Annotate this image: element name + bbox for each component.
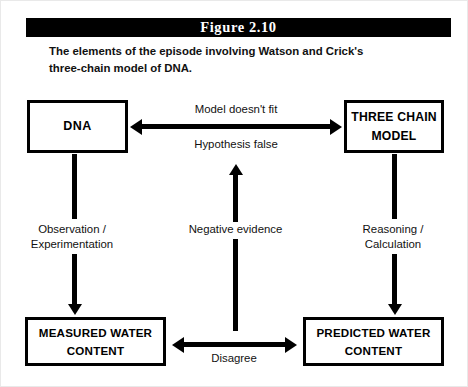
edge-label-observation-line-1: Observation / [38, 223, 106, 235]
arrow-shaft-vertical-left-upper [72, 154, 77, 219]
node-predicted-water-content: PREDICTED WATER CONTENT [303, 317, 444, 366]
caption-line-2: three-chain model of DNA. [49, 60, 419, 77]
arrowhead-down-right [388, 304, 402, 315]
node-measured-water-content: MEASURED WATER CONTENT [25, 317, 166, 366]
node-measured-water-content-line-1: MEASURED WATER [39, 326, 152, 339]
edge-label-observation-line-2: Experimentation [31, 238, 113, 250]
node-three-chain-model: THREE CHAIN MODEL [344, 100, 444, 153]
figure-caption: The elements of the episode involving Wa… [49, 43, 419, 77]
figure-number-bar: Figure 2.10 [26, 18, 451, 37]
arrow-shaft-vertical-center-upper [233, 175, 238, 222]
node-measured-water-content-label: MEASURED WATER CONTENT [39, 324, 152, 360]
arrow-shaft-horizontal-top [142, 124, 330, 129]
arrow-shaft-vertical-right-upper [392, 154, 397, 219]
node-predicted-water-content-line-1: PREDICTED WATER [316, 326, 430, 339]
edge-label-model-doesnt-fit: Model doesn't fit [171, 102, 301, 117]
edge-label-negative-evidence: Negative evidence [173, 222, 298, 237]
caption-line-1: The elements of the episode involving Wa… [49, 43, 419, 60]
node-three-chain-model-line-2: MODEL [371, 129, 416, 143]
arrow-shaft-vertical-right-lower [392, 254, 397, 305]
node-three-chain-model-line-1: THREE CHAIN [351, 110, 436, 124]
node-measured-water-content-line-2: CONTENT [67, 344, 124, 357]
arrow-shaft-horizontal-bottom [184, 342, 285, 347]
edge-label-reasoning-calculation: Reasoning / Calculation [340, 222, 446, 252]
node-predicted-water-content-line-2: CONTENT [345, 344, 402, 357]
arrowhead-left-top [130, 119, 142, 135]
arrowhead-right-top [330, 119, 342, 135]
node-dna: DNA [27, 100, 128, 153]
node-dna-label: DNA [63, 117, 92, 136]
arrow-shaft-vertical-center-lower [233, 239, 238, 331]
arrowhead-down-left [68, 304, 82, 315]
edge-label-hypothesis-false: Hypothesis false [171, 137, 301, 152]
figure-container: Figure 2.10 The elements of the episode … [0, 0, 468, 387]
arrow-shaft-vertical-left-lower [72, 254, 77, 305]
edge-label-reasoning-line-2: Calculation [365, 238, 421, 250]
edge-label-observation-experimentation: Observation / Experimentation [14, 222, 130, 252]
edge-label-reasoning-line-1: Reasoning / [363, 223, 424, 235]
node-predicted-water-content-label: PREDICTED WATER CONTENT [316, 324, 430, 360]
figure-number-label: Figure 2.10 [200, 20, 276, 35]
node-three-chain-model-label: THREE CHAIN MODEL [351, 108, 436, 146]
arrowhead-up-center [229, 164, 243, 175]
edge-label-disagree: Disagree [174, 351, 294, 366]
